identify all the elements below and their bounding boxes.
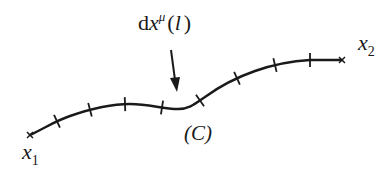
path-diagram: dxμ(l) x2 x1 (C) — [0, 0, 391, 176]
tick-mark — [161, 101, 163, 115]
tick-marks — [54, 53, 310, 128]
tick-mark — [196, 95, 204, 106]
curve-label: (C) — [184, 121, 212, 145]
start-point-label: x1 — [21, 139, 39, 168]
arrow-icon — [170, 50, 180, 92]
end-point-label: x2 — [357, 30, 375, 59]
tick-mark — [125, 97, 126, 111]
element-label: dxμ(l) — [138, 9, 191, 35]
